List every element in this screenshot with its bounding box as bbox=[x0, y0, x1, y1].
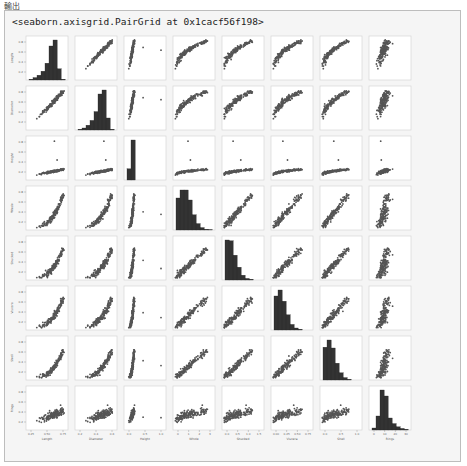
x-axis-label: Whole bbox=[189, 437, 199, 441]
subplot-diameter-vs-shucked bbox=[222, 86, 264, 130]
subplot-diameter-vs-viscera bbox=[271, 86, 313, 130]
svg-text:0: 0 bbox=[177, 432, 179, 436]
svg-text:0.4: 0.4 bbox=[19, 210, 24, 214]
subplot-shucked-vs-length: 0.80.60.40.2Shucked bbox=[10, 236, 68, 280]
svg-text:0.75: 0.75 bbox=[305, 432, 311, 436]
y-axis-label: Viscera bbox=[10, 302, 14, 313]
subplot-whole-vs-whole bbox=[173, 186, 215, 230]
subplot-diameter-vs-height bbox=[124, 86, 166, 130]
subplot-height-vs-rings bbox=[369, 136, 411, 180]
subplot-length-vs-shell bbox=[320, 36, 362, 80]
svg-text:0.4: 0.4 bbox=[19, 160, 24, 164]
subplot-viscera-vs-rings bbox=[369, 286, 411, 330]
subplot-length-vs-viscera bbox=[271, 36, 313, 80]
subplot-shell-vs-rings bbox=[369, 336, 411, 380]
svg-text:0: 0 bbox=[373, 432, 375, 436]
subplot-shucked-vs-shucked bbox=[222, 236, 264, 280]
subplot-whole-vs-rings bbox=[369, 186, 411, 230]
svg-text:1: 1 bbox=[188, 432, 190, 436]
svg-text:0.50: 0.50 bbox=[44, 432, 50, 436]
x-axis-label: Shell bbox=[337, 437, 344, 441]
subplot-diameter-vs-diameter bbox=[75, 86, 117, 130]
svg-text:0.4: 0.4 bbox=[19, 260, 24, 264]
pair-grid-plot: 0.80.60.40.2Length0.80.60.40.2Diameter0.… bbox=[0, 0, 467, 466]
svg-text:0.6: 0.6 bbox=[19, 300, 24, 304]
svg-text:0.8: 0.8 bbox=[19, 190, 24, 194]
svg-text:0.2: 0.2 bbox=[19, 370, 24, 374]
subplot-rings-vs-length: 0.80.60.40.2Rings0.250.500.75Length bbox=[10, 386, 68, 441]
svg-text:0.6: 0.6 bbox=[19, 200, 24, 204]
svg-text:0.2: 0.2 bbox=[78, 432, 83, 436]
svg-text:0.4: 0.4 bbox=[19, 310, 24, 314]
svg-text:0.2: 0.2 bbox=[19, 70, 24, 74]
svg-text:0.8: 0.8 bbox=[19, 390, 24, 394]
subplot-rings-vs-whole: 0123Whole bbox=[173, 386, 215, 441]
subplot-shell-vs-diameter bbox=[75, 336, 117, 380]
subplot-height-vs-whole bbox=[173, 136, 215, 180]
subplot-viscera-vs-length: 0.80.60.40.2Viscera bbox=[10, 286, 68, 330]
subplot-length-vs-diameter bbox=[75, 36, 117, 80]
svg-text:0.4: 0.4 bbox=[19, 410, 24, 414]
subplot-rings-vs-shell: 0.00.51.0Shell bbox=[320, 386, 362, 441]
subplot-shucked-vs-height bbox=[124, 236, 166, 280]
svg-text:0.8: 0.8 bbox=[19, 40, 24, 44]
subplot-viscera-vs-shell bbox=[320, 286, 362, 330]
subplot-whole-vs-shell bbox=[320, 186, 362, 230]
subplot-height-vs-length: 0.80.60.40.2Height bbox=[10, 136, 68, 180]
subplot-rings-vs-shucked: 0.00.51.01.5Shucked bbox=[222, 386, 264, 441]
subplot-length-vs-rings bbox=[369, 36, 411, 80]
subplot-rings-vs-diameter: 0.20.40.6Diameter bbox=[75, 386, 117, 441]
subplot-shell-vs-shucked bbox=[222, 336, 264, 380]
subplot-diameter-vs-length: 0.80.60.40.2Diameter bbox=[10, 86, 68, 130]
svg-text:0.2: 0.2 bbox=[19, 320, 24, 324]
svg-text:0.6: 0.6 bbox=[19, 400, 24, 404]
subplot-whole-vs-length: 0.80.60.40.2Whole bbox=[10, 186, 68, 230]
svg-text:0.6: 0.6 bbox=[110, 432, 115, 436]
svg-text:0.4: 0.4 bbox=[19, 60, 24, 64]
svg-text:3: 3 bbox=[209, 432, 211, 436]
svg-text:0.4: 0.4 bbox=[19, 360, 24, 364]
subplot-whole-vs-height bbox=[124, 186, 166, 230]
svg-text:0.6: 0.6 bbox=[19, 100, 24, 104]
svg-text:0.5: 0.5 bbox=[143, 432, 148, 436]
svg-text:0.4: 0.4 bbox=[94, 432, 99, 436]
subplot-height-vs-height bbox=[124, 136, 166, 180]
subplot-height-vs-diameter bbox=[75, 136, 117, 180]
svg-text:1.0: 1.0 bbox=[246, 432, 251, 436]
svg-text:30: 30 bbox=[404, 432, 408, 436]
svg-text:0.4: 0.4 bbox=[19, 110, 24, 114]
subplot-length-vs-shucked bbox=[222, 36, 264, 80]
x-axis-label: Diameter bbox=[89, 437, 104, 441]
subplot-height-vs-shell bbox=[320, 136, 362, 180]
subplot-shucked-vs-whole bbox=[173, 236, 215, 280]
svg-text:10: 10 bbox=[383, 432, 387, 436]
svg-text:1.0: 1.0 bbox=[355, 432, 360, 436]
y-axis-label: Length bbox=[10, 53, 14, 63]
svg-text:0.25: 0.25 bbox=[284, 432, 290, 436]
svg-text:0.5: 0.5 bbox=[339, 432, 344, 436]
svg-text:0.2: 0.2 bbox=[19, 120, 24, 124]
y-axis-label: Shucked bbox=[10, 252, 14, 265]
svg-text:0.0: 0.0 bbox=[225, 432, 230, 436]
subplot-rings-vs-height: 0.00.51.0Height bbox=[124, 386, 166, 441]
x-axis-label: Shucked bbox=[237, 437, 250, 441]
svg-text:0.8: 0.8 bbox=[19, 340, 24, 344]
subplot-viscera-vs-shucked bbox=[222, 286, 264, 330]
svg-text:0.8: 0.8 bbox=[19, 140, 24, 144]
x-axis-label: Height bbox=[140, 437, 151, 441]
svg-text:0.00: 0.00 bbox=[273, 432, 279, 436]
subplot-shell-vs-length: 0.80.60.40.2Shell bbox=[10, 336, 68, 380]
svg-text:1.5: 1.5 bbox=[257, 432, 262, 436]
subplot-shucked-vs-rings bbox=[369, 236, 411, 280]
svg-text:0.8: 0.8 bbox=[19, 90, 24, 94]
subplot-height-vs-shucked bbox=[222, 136, 264, 180]
subplot-whole-vs-shucked bbox=[222, 186, 264, 230]
svg-text:2: 2 bbox=[198, 432, 200, 436]
y-axis-label: Shell bbox=[10, 354, 14, 361]
svg-text:0.8: 0.8 bbox=[19, 290, 24, 294]
svg-text:0.0: 0.0 bbox=[127, 432, 132, 436]
subplot-length-vs-length: 0.80.60.40.2Length bbox=[10, 36, 68, 80]
svg-text:0.6: 0.6 bbox=[19, 250, 24, 254]
subplot-shell-vs-height bbox=[124, 336, 166, 380]
svg-text:0.6: 0.6 bbox=[19, 350, 24, 354]
